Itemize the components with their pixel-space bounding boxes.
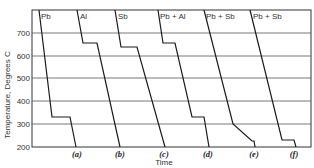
curve-pb-sb-e — [204, 10, 255, 147]
y-tick-300: 300 — [17, 120, 31, 129]
letter-d: (d) — [203, 149, 213, 159]
curve-pb-sb-f — [250, 10, 296, 147]
letter-f: (f) — [290, 149, 299, 159]
letter-a: (a) — [72, 149, 82, 159]
y-tick-200: 200 — [17, 143, 31, 152]
y-tick-700: 700 — [17, 29, 31, 38]
x-axis-title: Time — [155, 158, 173, 167]
curve-letters: (a) (b) (c) (d) (e) (f) — [72, 149, 298, 159]
y-tick-500: 500 — [17, 74, 31, 83]
curve-pb — [39, 10, 76, 147]
curves — [39, 10, 296, 147]
y-tick-labels: 700 600 500 400 300 200 — [17, 29, 31, 152]
y-axis-title: Temperature, Degrees C — [3, 51, 12, 139]
y-tick-600: 600 — [17, 52, 31, 61]
curve-label-sb: Sb — [118, 12, 128, 21]
curve-label-pb-sb-f: Pb + Sb — [253, 12, 282, 21]
cooling-curves-chart: 700 600 500 400 300 200 Temperature, Deg… — [0, 0, 314, 168]
curve-label-pb: Pb — [41, 12, 51, 21]
curve-label-pb-sb-e: Pb + Sb — [206, 12, 235, 21]
y-tick-400: 400 — [17, 97, 31, 106]
letter-b: (b) — [115, 149, 125, 159]
letter-e: (e) — [249, 149, 259, 159]
curve-sb — [115, 10, 165, 147]
curve-label-al: Al — [80, 12, 87, 21]
grid-lines — [32, 33, 311, 124]
curve-al — [77, 10, 120, 147]
curve-pb-al — [158, 10, 209, 147]
plot-frame — [32, 10, 311, 147]
curve-label-pb-al: Pb + Al — [160, 12, 186, 21]
